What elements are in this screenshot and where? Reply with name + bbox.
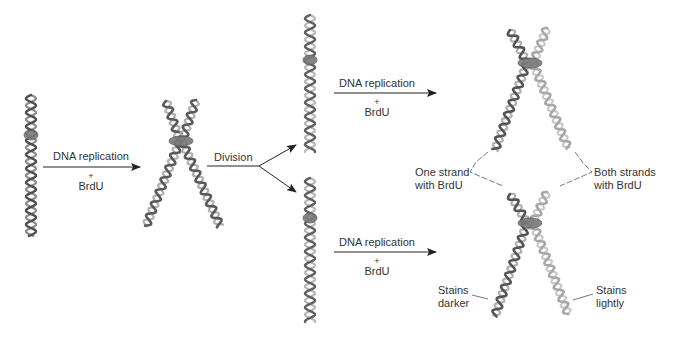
stains-darker-line2: darker	[438, 297, 469, 310]
replication-1-label: DNA replication	[53, 150, 129, 163]
stains-lightly-line1: Stains	[596, 284, 627, 297]
both-strands-line2: with BrdU	[594, 179, 656, 192]
one-strand-label: One strand with BrdU	[415, 166, 469, 192]
stains-darker-label: Stains darker	[438, 284, 469, 310]
stains-lightly-line2: lightly	[596, 297, 627, 310]
both-strands-label: Both strands with BrdU	[594, 166, 656, 192]
one-strand-line2: with BrdU	[415, 179, 469, 192]
division-label: Division	[214, 151, 253, 164]
original-chromosome	[24, 95, 38, 236]
second-replication-top	[492, 28, 570, 151]
daughter-chromosome-top	[303, 15, 317, 152]
stains-darker-line1: Stains	[438, 284, 469, 297]
replication-2-top-label: DNA replication	[339, 77, 415, 90]
both-strands-line1: Both strands	[594, 166, 656, 179]
diagram-canvas	[0, 0, 676, 339]
second-replication-bottom	[493, 192, 571, 317]
replication-2-bottom-label: DNA replication	[339, 236, 415, 249]
replication-2-top-brdu: BrdU	[364, 106, 389, 119]
replication-2-bottom-brdu: BrdU	[364, 265, 389, 278]
replicated-chromatids	[144, 100, 224, 227]
one-strand-line1: One strand	[415, 166, 469, 179]
daughter-chromosome-bottom	[303, 178, 317, 322]
replication-1-brdu: BrdU	[78, 180, 103, 193]
stains-lightly-label: Stains lightly	[596, 284, 627, 310]
